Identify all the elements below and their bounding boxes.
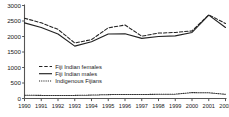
x-axis-tick-label: 1995 [102,103,114,109]
x-axis-tick-label: 1999 [169,103,181,109]
chart-legend: Fiji Indian femalesFiji Indian malesIndi… [39,64,102,84]
legend-label: Fiji Indian females [55,64,102,70]
y-axis-tick-label: 500 [11,79,22,86]
x-axis-tick-label: 2001 [203,103,215,109]
x-axis-tick-label: 1993 [69,103,81,109]
chart-canvas: 050010001500200025003000 199019911992199… [0,0,229,117]
y-axis-tick-label: 1500 [7,48,21,55]
legend-label: Indigenous Fijians [55,78,102,84]
x-axis-tick-label: 1992 [52,103,64,109]
series-line [25,93,226,96]
x-axis: 1990199119921993199419951996199719981999… [18,99,229,110]
x-axis-tick-label: 1991 [35,103,47,109]
x-axis-tick-label: 1998 [152,103,164,109]
x-axis-tick-label: 1997 [136,103,148,109]
y-axis: 050010001500200025003000 [7,2,24,102]
line-chart: 050010001500200025003000 199019911992199… [0,0,229,117]
legend-label: Fiji Indian males [55,71,97,77]
y-axis-tick-label: 3000 [7,2,21,9]
series-line [25,15,226,46]
x-axis-tick-label: 1996 [119,103,131,109]
x-axis-tick-label: 1994 [85,103,97,109]
x-axis-tick-label: 1990 [18,103,30,109]
x-axis-tick-label: 2002 [219,103,229,109]
y-axis-tick-label: 2500 [7,17,21,24]
y-axis-tick-label: 1000 [7,64,21,71]
x-axis-tick-label: 2000 [186,103,198,109]
y-axis-tick-label: 2000 [7,33,21,40]
y-axis-tick-label: 0 [17,95,21,102]
